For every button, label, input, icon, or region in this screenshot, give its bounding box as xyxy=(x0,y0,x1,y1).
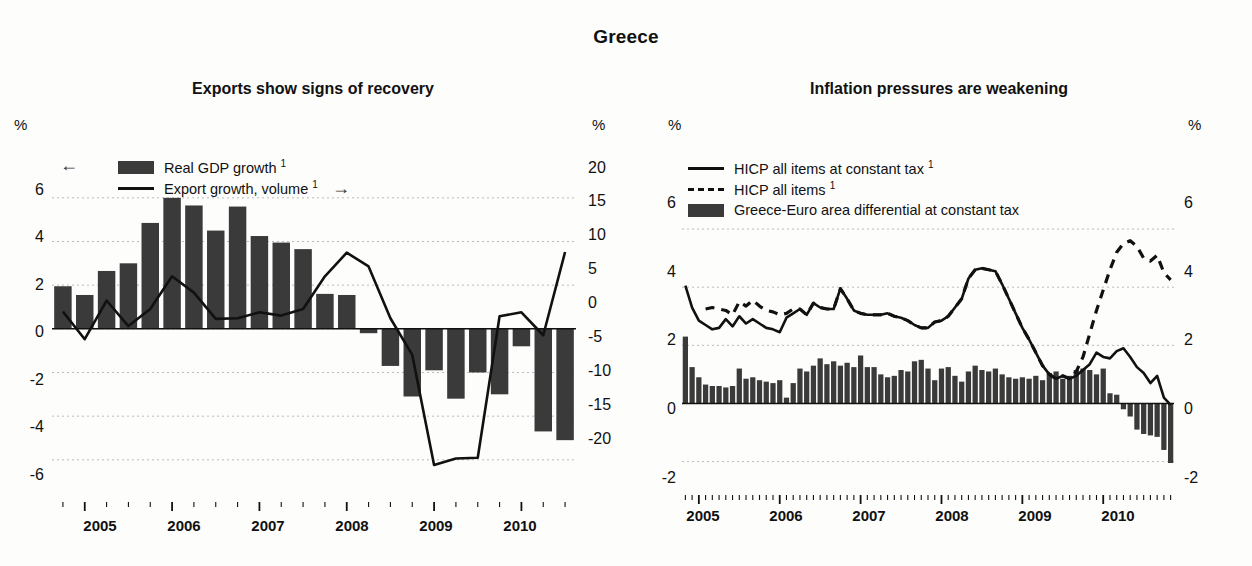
x-label-2: 2007 xyxy=(233,517,303,534)
x-label-2: 2007 xyxy=(834,507,904,524)
chart-panel-exports: Exports show signs of recovery % % 6 4 2… xyxy=(0,0,626,566)
line-swatch-icon xyxy=(688,167,724,170)
x-label-5: 2010 xyxy=(485,517,555,534)
dashed-line-swatch-icon xyxy=(688,188,724,191)
legend-item-export-growth: Export growth, volume 1 xyxy=(118,178,318,199)
bar-swatch-icon xyxy=(688,204,724,217)
x-label-5: 2010 xyxy=(1083,507,1153,524)
x-label-4: 2009 xyxy=(1000,507,1070,524)
legend-label-real-gdp-growth: Real GDP growth 1 xyxy=(164,159,286,175)
legend-label-hicp-constant-tax: HICP all items at constant tax 1 xyxy=(734,160,934,176)
legend-item-real-gdp-growth: Real GDP growth 1 xyxy=(118,157,318,178)
x-label-1: 2006 xyxy=(751,507,821,524)
legend-inflation: HICP all items at constant tax 1 HICP al… xyxy=(688,158,1019,221)
right-arrow-icon: → xyxy=(332,178,350,199)
legend-item-differential: Greece-Euro area differential at constan… xyxy=(688,200,1019,221)
line-swatch-icon xyxy=(118,187,154,190)
legend-label-hicp-all-items: HICP all items 1 xyxy=(734,181,835,197)
exports-plot xyxy=(0,0,626,566)
legend-label-export-growth: Export growth, volume 1 xyxy=(164,180,318,196)
chart-panel-inflation: Inflation pressures are weakening % % 6 … xyxy=(626,0,1252,566)
x-label-0: 2005 xyxy=(668,507,738,524)
legend-item-hicp-all-items: HICP all items 1 xyxy=(688,179,1019,200)
left-arrow-icon: ← xyxy=(60,155,78,176)
inflation-plot xyxy=(626,0,1252,566)
x-label-0: 2005 xyxy=(65,517,135,534)
x-label-3: 2008 xyxy=(317,517,387,534)
legend-label-differential: Greece-Euro area differential at constan… xyxy=(734,203,1019,218)
x-label-4: 2009 xyxy=(401,517,471,534)
x-label-3: 2008 xyxy=(917,507,987,524)
bar-swatch-icon xyxy=(118,161,154,174)
legend-exports: Real GDP growth 1 Export growth, volume … xyxy=(118,157,318,199)
x-label-1: 2006 xyxy=(149,517,219,534)
legend-item-hicp-constant-tax: HICP all items at constant tax 1 xyxy=(688,158,1019,179)
